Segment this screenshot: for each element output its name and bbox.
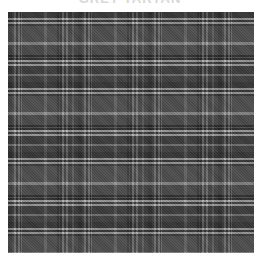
image-caption: GREY TARTAN <box>60 0 200 3</box>
twill-texture <box>8 12 254 253</box>
plaid-fabric-image <box>8 12 254 253</box>
